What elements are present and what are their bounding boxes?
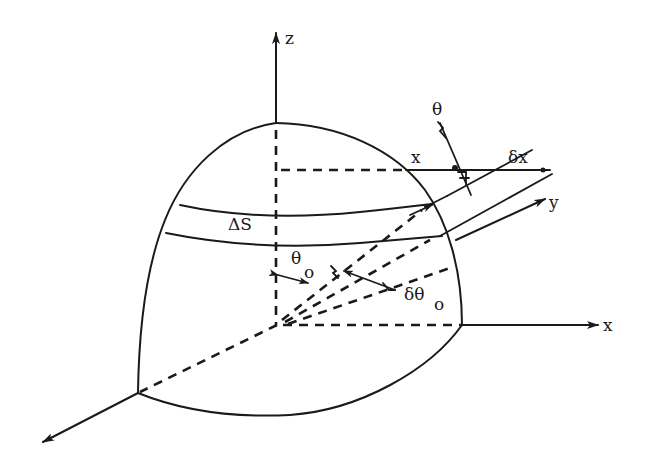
x-distance-label: x (411, 147, 421, 167)
band-label: ΔS (228, 214, 252, 234)
delta-x-label: δx (508, 147, 528, 167)
theta-exit-label: θ (432, 99, 442, 119)
z-axis-label: z (285, 28, 294, 48)
front-axis (43, 393, 138, 442)
z-axis: z (276, 28, 294, 123)
exit-angle: θ x δx (411, 99, 528, 195)
delta-theta0-subscript: o (434, 294, 444, 314)
theta0-label: θ (291, 248, 301, 268)
theta0-subscript: o (304, 262, 314, 282)
surface-band: ΔS (166, 204, 442, 246)
x-axis: x (462, 315, 613, 335)
y-axis-label: y (548, 192, 559, 212)
dome-geometry-diagram: z ΔS x y (0, 0, 645, 473)
x-axis-label: x (603, 315, 613, 335)
delta-theta0-label: δθ (404, 284, 424, 304)
